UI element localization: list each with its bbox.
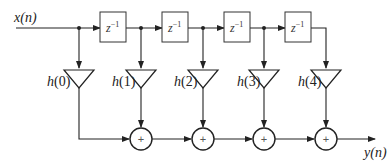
adder-2: + <box>192 128 214 150</box>
svg-text:+: + <box>323 133 329 145</box>
svg-text:+: + <box>200 133 206 145</box>
svg-text:h(1): h(1) <box>112 74 136 90</box>
gain-h3: h(3) <box>237 70 279 90</box>
output-label: y(n) <box>362 145 387 161</box>
gain-h4: h(4) <box>298 70 341 90</box>
delay-block-4: z−1 <box>285 12 311 42</box>
svg-text:h(3): h(3) <box>237 74 261 90</box>
gain-h2: h(2) <box>174 70 218 90</box>
fir-filter-diagram: x(n) z−1 z−1 z−1 z−1 hh(0)(0) <box>0 0 390 165</box>
svg-text:hh(0)(0): hh(0)(0) <box>47 74 71 90</box>
svg-text:h(2): h(2) <box>174 74 198 90</box>
gain-h0: hh(0)(0) <box>47 70 94 90</box>
delay-block-1: z−1 <box>100 12 126 42</box>
svg-text:+: + <box>138 133 144 145</box>
adder-4: + <box>315 128 337 150</box>
input-label: x(n) <box>13 10 37 26</box>
svg-text:+: + <box>261 133 267 145</box>
delay-block-3: z−1 <box>224 12 250 42</box>
svg-text:h(4): h(4) <box>298 74 322 90</box>
delay-block-2: z−1 <box>162 12 188 42</box>
adder-3: + <box>253 128 275 150</box>
gain-h1: h(1) <box>112 70 156 90</box>
adder-1: + <box>130 128 152 150</box>
